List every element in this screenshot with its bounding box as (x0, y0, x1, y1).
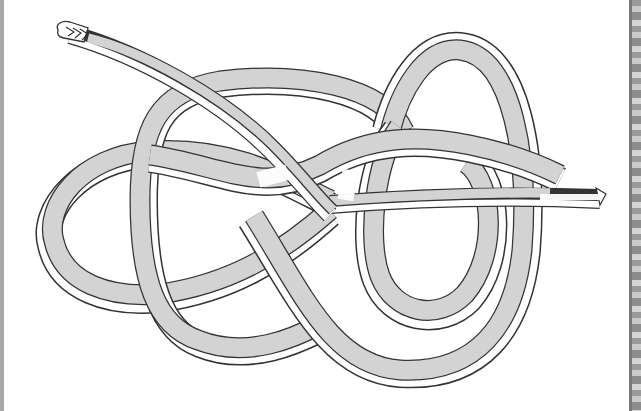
strap-aglet (57, 21, 88, 42)
strap-tail (70, 31, 333, 215)
knot-illustration (0, 0, 641, 411)
